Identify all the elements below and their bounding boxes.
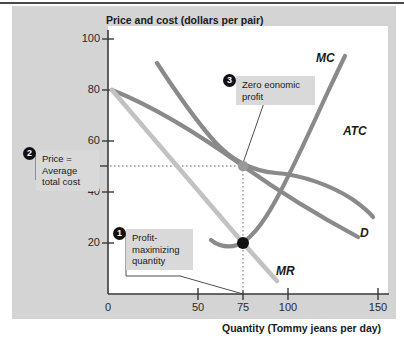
callout-price-equals-atc: Price = Average total cost (36, 150, 99, 191)
x-tick-label-150: 150 (366, 301, 390, 313)
economics-figure: Price and cost (dollars per pair) Quanti… (0, 0, 404, 342)
mc-curve-label: MC (316, 51, 335, 65)
atc-curve-label: ATC (343, 124, 367, 138)
callout-3-leader (243, 100, 265, 163)
y-tick-marks (100, 39, 114, 243)
x-tick-label-100: 100 (276, 301, 300, 313)
y-axis-title: Price and cost (dollars per pair) (106, 14, 264, 26)
x-axis-title: Quantity (Tommy jeans per day) (222, 322, 381, 334)
callout-profit-maximizing-quantity: Profit- maximizing quantity (126, 229, 193, 270)
callout-zero-economic-profit: Zero eonomic profit (236, 76, 315, 105)
demand-curve (112, 90, 358, 237)
y-tick-label-100: 100 (74, 32, 100, 44)
demand-curve-label: D (360, 226, 369, 240)
y-tick-label-20: 20 (74, 236, 100, 248)
mr-curve-label: MR (276, 264, 295, 278)
profit-maximizing-marker (237, 237, 249, 249)
callout-badge-3: 3 (223, 74, 236, 87)
y-tick-label-60: 60 (74, 134, 100, 146)
x-tick-label-50: 50 (186, 301, 210, 313)
zero-economic-profit-marker (238, 161, 248, 171)
y-tick-label-80: 80 (74, 83, 100, 95)
callout-badge-1: 1 (113, 227, 126, 240)
x-tick-label-75: 75 (231, 301, 255, 313)
x-tick-label-0: 0 (96, 301, 120, 313)
callout-badge-2: 2 (23, 147, 36, 160)
